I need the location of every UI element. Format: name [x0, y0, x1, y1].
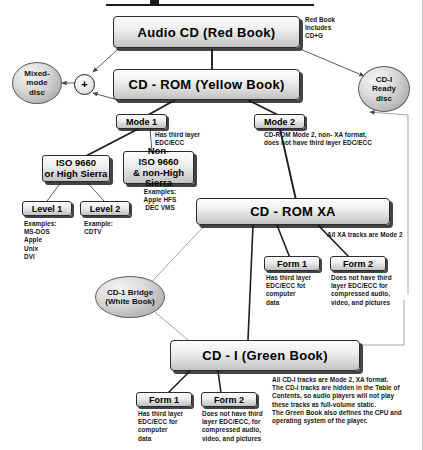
- oval-cdi-ready-disc-label: CD-I Ready disc: [372, 75, 396, 103]
- note-non-iso-examples: Examples: Apple HFS DEC VMS: [128, 188, 192, 213]
- node-level-2[interactable]: Level 2: [80, 201, 130, 216]
- node-xa-form-2-label: Form 2: [343, 259, 373, 269]
- node-audio-cd[interactable]: Audio CD (Red Book): [113, 16, 300, 48]
- node-cd-i-label: CD - I (Green Book): [202, 348, 328, 363]
- oval-cdi-bridge[interactable]: CD-1 Bridge (White Book): [95, 276, 165, 318]
- node-level-2-label: Level 2: [90, 204, 121, 214]
- node-audio-cd-label: Audio CD (Red Book): [138, 25, 276, 40]
- node-level-1[interactable]: Level 1: [22, 201, 72, 216]
- node-non-iso-9660[interactable]: Non- ISO 9660 & non-High Sierra: [123, 151, 194, 184]
- node-cdi-form-1[interactable]: Form 1: [136, 392, 192, 407]
- diagram-canvas: Audio CD (Red Book) Red Book Includes CD…: [0, 0, 423, 450]
- node-cdi-form-1-label: Form 1: [149, 395, 179, 405]
- title-underline-rule: [106, 4, 314, 6]
- note-xa-tracks: All XA tracks are Mode 2: [327, 231, 419, 239]
- junction-plus-label: +: [81, 79, 87, 90]
- node-level-1-label: Level 1: [32, 204, 63, 214]
- junction-plus: +: [74, 74, 95, 95]
- node-iso-9660[interactable]: ISO 9660 or High Sierra: [42, 155, 110, 182]
- node-mode-2-label: Mode 2: [264, 117, 295, 127]
- node-mode-2[interactable]: Mode 2: [254, 114, 305, 129]
- node-mode-1[interactable]: Mode 1: [116, 114, 167, 129]
- note-cdi-form-1: Has third layer EDC/ECC for computer dat…: [138, 410, 198, 443]
- node-mode-1-label: Mode 1: [126, 117, 157, 127]
- oval-cdi-ready-disc[interactable]: CD-I Ready disc: [358, 66, 410, 112]
- oval-mixed-mode-disc-label: Mixed- mode disc: [24, 69, 49, 97]
- title-glyph-remnant: [150, 0, 159, 5]
- node-iso-9660-label: ISO 9660 or High Sierra: [45, 158, 108, 179]
- oval-cdi-bridge-label: CD-1 Bridge (White Book): [105, 288, 154, 306]
- note-xa-form-2: Does not have third layer EDC/ECC for co…: [331, 274, 403, 307]
- note-red-book: Red Book Includes CD+G: [305, 16, 375, 41]
- node-cdi-form-2[interactable]: Form 2: [201, 392, 257, 407]
- note-xa-form-1: Has third layer EDC/ECC fot computer dat…: [266, 274, 326, 307]
- node-xa-form-1-label: Form 1: [277, 259, 307, 269]
- node-xa-form-1[interactable]: Form 1: [264, 256, 320, 271]
- node-cd-rom-xa-label: CD - ROM XA: [250, 204, 336, 219]
- oval-mixed-mode-disc[interactable]: Mixed- mode disc: [12, 62, 62, 104]
- node-xa-form-2[interactable]: Form 2: [330, 256, 386, 271]
- note-level-2-examples: Example: CDTV: [84, 220, 140, 236]
- node-cd-rom[interactable]: CD - ROM (Yellow Book): [113, 69, 300, 100]
- note-cdi-summary: All CD-I tracks are Mode 2, XA format. T…: [272, 376, 422, 425]
- node-cdi-form-2-label: Form 2: [214, 395, 244, 405]
- note-mode-2: CD-ROM Mode 2, non- XA format, does not …: [264, 131, 419, 147]
- node-cd-rom-xa[interactable]: CD - ROM XA: [196, 198, 390, 225]
- node-cd-rom-label: CD - ROM (Yellow Book): [128, 77, 284, 92]
- note-cdi-form-2: Does not have third layer EDC/ECC, for c…: [202, 410, 276, 443]
- note-level-1-examples: Examples: MS-DOS Apple Unix DVI: [24, 220, 80, 261]
- node-non-iso-9660-label: Non- ISO 9660 & non-High Sierra: [124, 146, 193, 189]
- node-cd-i[interactable]: CD - I (Green Book): [170, 340, 360, 371]
